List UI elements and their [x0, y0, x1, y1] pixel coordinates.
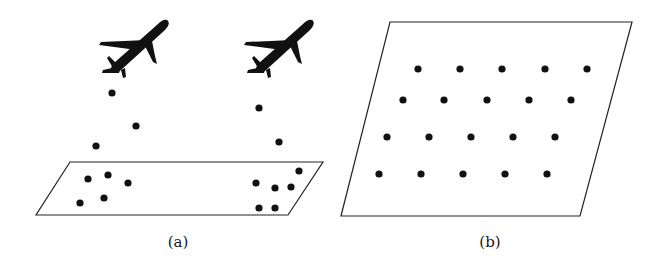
airplane-right-icon [244, 20, 314, 78]
grid-dot [459, 170, 466, 177]
airplane-left-icon [99, 20, 169, 78]
falling-dot [108, 89, 115, 96]
grid-dot [440, 96, 447, 103]
ground-dot [271, 204, 278, 211]
ground-dot [255, 204, 262, 211]
grid-dot [543, 170, 550, 177]
grid-dot [425, 133, 432, 140]
grid-dot [509, 133, 516, 140]
falling-dot [132, 122, 139, 129]
ground-dot [271, 184, 278, 191]
falling-dot [255, 104, 262, 111]
grid-dot [483, 96, 490, 103]
grid-dot [551, 133, 558, 140]
grid-dot [417, 170, 424, 177]
falling-dot [92, 142, 99, 149]
ground-dot [100, 194, 107, 201]
caption-a: (a) [168, 233, 189, 251]
panel-a [36, 20, 323, 215]
ground-dot [124, 179, 131, 186]
falling-dots [92, 89, 282, 149]
ground-dot [84, 175, 91, 182]
grid-dot [414, 65, 421, 72]
ground-dot [295, 167, 302, 174]
grid-dot [399, 96, 406, 103]
grid-dots-uniform [375, 65, 590, 177]
diagram-canvas [0, 0, 656, 271]
ground-dot [287, 183, 294, 190]
grid-dot [525, 96, 532, 103]
grid-dot [541, 65, 548, 72]
caption-b: (b) [479, 233, 500, 251]
ground-parallelogram-a [36, 162, 323, 215]
grid-dot [467, 133, 474, 140]
grid-dot [383, 133, 390, 140]
grid-dot [498, 65, 505, 72]
ground-dots-clustered [76, 167, 302, 211]
grid-dot [456, 65, 463, 72]
grid-dot [375, 170, 382, 177]
grid-dot [583, 65, 590, 72]
panel-b [341, 22, 632, 216]
grid-dot [567, 96, 574, 103]
ground-dot [104, 171, 111, 178]
falling-dot [275, 138, 282, 145]
ground-parallelogram-b [341, 22, 632, 216]
ground-dot [252, 179, 259, 186]
grid-dot [501, 170, 508, 177]
ground-dot [76, 199, 83, 206]
